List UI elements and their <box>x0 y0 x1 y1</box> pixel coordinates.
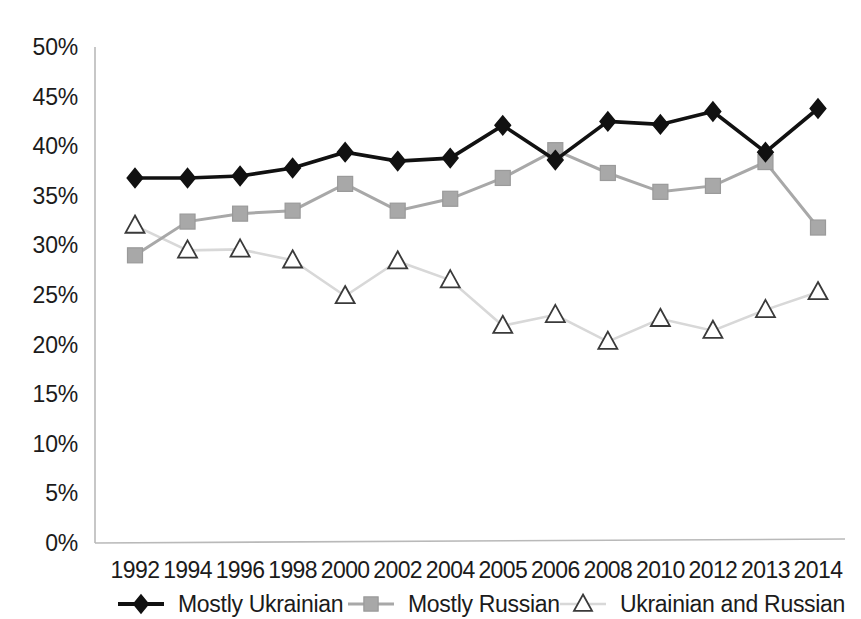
data-point-marker-square <box>128 248 143 263</box>
x-axis-tick-label: 1998 <box>268 557 317 583</box>
legend-label: Ukrainian and Russian <box>620 591 845 617</box>
y-axis-tick-label: 5% <box>45 480 78 506</box>
x-axis-tick-label: 2013 <box>741 557 790 583</box>
x-axis-tick-label: 2012 <box>689 557 738 583</box>
y-axis-tick-label: 0% <box>45 530 78 556</box>
x-axis-tick-label: 2010 <box>636 557 685 583</box>
data-point-marker-square <box>811 220 826 235</box>
x-axis-tick-label: 2014 <box>794 557 844 583</box>
y-axis-tick-label: 40% <box>33 133 78 159</box>
data-point-marker-square <box>180 214 195 229</box>
x-axis-tick-label: 1996 <box>216 557 265 583</box>
data-point-marker-square <box>600 165 615 180</box>
y-axis-tick-label: 20% <box>33 332 78 358</box>
x-axis-tick-label: 2006 <box>531 557 580 583</box>
line-chart-figure: 0%5%10%15%20%25%30%35%40%45%50% 19921994… <box>0 0 861 619</box>
x-axis-tick-label: 1994 <box>163 557 213 583</box>
y-axis-tick-label: 45% <box>33 84 78 110</box>
legend-label: Mostly Ukrainian <box>178 591 343 617</box>
data-point-marker-square <box>653 184 668 199</box>
data-point-marker-square <box>443 191 458 206</box>
data-point-marker-square <box>390 203 405 218</box>
chart-background <box>0 0 861 619</box>
x-axis-tick-label: 2008 <box>583 557 632 583</box>
y-axis-tick-label: 30% <box>33 232 78 258</box>
y-axis-tick-label: 10% <box>33 431 78 457</box>
data-point-marker-square <box>285 203 300 218</box>
data-point-marker-square <box>495 170 510 185</box>
x-axis-tick-label: 2002 <box>373 557 422 583</box>
x-axis-tick-label: 1992 <box>111 557 160 583</box>
chart-canvas: 0%5%10%15%20%25%30%35%40%45%50% 19921994… <box>0 0 861 619</box>
y-axis-tick-label: 50% <box>33 34 78 60</box>
y-axis-tick-label: 35% <box>33 183 78 209</box>
legend-label: Mostly Russian <box>408 591 560 617</box>
chart-legend: Mostly UkrainianMostly RussianUkrainian … <box>118 591 845 617</box>
data-point-marker-square <box>364 597 378 611</box>
y-axis-tick-label: 15% <box>33 381 78 407</box>
x-axis-tick-label: 2000 <box>321 557 370 583</box>
x-axis-tick-label: 2004 <box>426 557 476 583</box>
y-axis-tick-label: 25% <box>33 282 78 308</box>
data-point-marker-square <box>705 178 720 193</box>
data-point-marker-square <box>233 206 248 221</box>
data-point-marker-square <box>338 176 353 191</box>
x-axis-tick-label: 2005 <box>478 557 527 583</box>
